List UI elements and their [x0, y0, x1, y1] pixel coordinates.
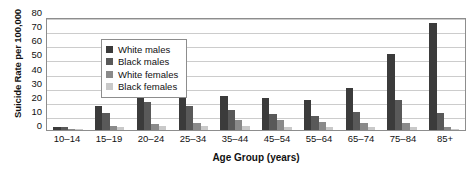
x-axis-tick-label: 10–14	[46, 134, 88, 148]
y-axis-tick-label: 20	[31, 93, 42, 103]
y-axis-tick-label: 0	[37, 121, 42, 131]
y-axis-tick-label: 80	[31, 8, 42, 18]
x-axis-title: Age Group (years)	[46, 152, 466, 163]
legend-swatch-icon	[106, 46, 113, 53]
bar	[242, 126, 249, 130]
x-axis-tick-label: 65–74	[340, 134, 382, 148]
x-axis-tick-label: 75–84	[382, 134, 424, 148]
x-axis-tick-label: 20–24	[130, 134, 172, 148]
legend-swatch-icon	[106, 58, 113, 65]
bar	[179, 96, 186, 130]
x-axis-tick-label: 15–19	[88, 134, 130, 148]
bar	[395, 100, 402, 130]
y-axis-tick-label: 40	[31, 65, 42, 75]
bar	[228, 110, 235, 130]
bar	[151, 124, 158, 130]
bar-group	[346, 19, 376, 130]
bar	[353, 112, 360, 130]
x-axis-tick-labels: 10–1415–1920–2425–3435–4445–5455–6465–74…	[46, 134, 466, 148]
bar	[159, 126, 166, 130]
y-axis-tick-label: 50	[31, 51, 42, 61]
bar-group	[220, 19, 250, 130]
bar	[360, 123, 367, 130]
bar	[144, 102, 151, 130]
bar	[220, 96, 227, 130]
legend-swatch-icon	[106, 83, 113, 90]
bar	[68, 129, 75, 130]
bar	[75, 129, 82, 130]
x-axis-tick-label: 35–44	[214, 134, 256, 148]
legend-swatch-icon	[106, 71, 113, 78]
bar-group	[262, 19, 292, 130]
legend-item-label: White females	[118, 70, 178, 80]
bar	[311, 116, 318, 130]
bar	[346, 88, 353, 130]
bar-group	[304, 19, 334, 130]
bar	[137, 96, 144, 130]
bar	[402, 123, 409, 130]
y-axis-tick-label: 30	[31, 79, 42, 89]
bar	[61, 127, 68, 130]
legend-item-label: Black females	[118, 82, 177, 92]
bar	[262, 98, 269, 130]
suicide-rate-bar-chart: Suicide Rate per 100,000 807060504030201…	[0, 0, 472, 175]
legend-item-label: White males	[118, 45, 170, 55]
bar	[102, 113, 109, 130]
chart-legend: White malesBlack malesWhite femalesBlack…	[101, 39, 187, 98]
bar	[429, 23, 436, 130]
y-axis-tick-label: 70	[31, 22, 42, 32]
legend-item: White females	[106, 68, 178, 81]
bar	[193, 123, 200, 130]
plot-area: White malesBlack malesWhite femalesBlack…	[46, 18, 466, 131]
bar	[117, 127, 124, 130]
legend-item: Black females	[106, 81, 178, 94]
bar	[284, 127, 291, 130]
bar	[53, 127, 60, 130]
x-axis-tick-label: 85+	[424, 134, 466, 148]
bar	[437, 113, 444, 130]
bar	[269, 114, 276, 130]
bar	[387, 54, 394, 130]
legend-item: Black males	[106, 56, 178, 69]
bar	[277, 120, 284, 130]
legend-item-label: Black males	[118, 57, 169, 67]
bar-group	[429, 19, 459, 130]
bar	[326, 127, 333, 130]
legend-item: White males	[106, 43, 178, 56]
x-axis-tick-label: 25–34	[172, 134, 214, 148]
bar-group	[53, 19, 83, 130]
bar-group	[387, 19, 417, 130]
bar	[235, 120, 242, 130]
bar	[368, 127, 375, 130]
bar	[186, 106, 193, 130]
x-axis-tick-label: 55–64	[298, 134, 340, 148]
bar	[304, 100, 311, 130]
y-axis-tick-label: 10	[31, 107, 42, 117]
bar	[95, 106, 102, 130]
bar	[451, 129, 458, 130]
bar	[201, 126, 208, 130]
bar	[110, 126, 117, 130]
y-axis-tick-label: 60	[31, 37, 42, 47]
y-axis-tick-labels: 80706050403020100	[20, 13, 42, 131]
x-axis-tick-label: 45–54	[256, 134, 298, 148]
bar	[444, 127, 451, 130]
bar	[319, 122, 326, 130]
bar	[410, 127, 417, 130]
